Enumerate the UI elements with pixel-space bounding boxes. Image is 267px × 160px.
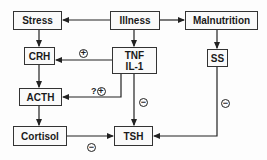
node-illness-label: Illness — [119, 15, 150, 26]
question-mark: ? — [91, 86, 97, 96]
node-stress: Stress — [13, 11, 62, 30]
node-cortisol: Cortisol — [13, 126, 67, 146]
node-cortisol-label: Cortisol — [21, 131, 59, 142]
minus-sign-ss-tsh: − — [221, 98, 230, 108]
minus-circle-icon: − — [139, 98, 148, 107]
node-stress-label: Stress — [22, 15, 53, 26]
node-tsh: TSH — [114, 126, 153, 146]
minus-circle-icon: − — [87, 143, 96, 152]
node-ss-label: SS — [211, 53, 224, 64]
question-plus-sign-tnf-acth: ?+ — [91, 86, 106, 96]
diagram-canvas: Stress Illness Malnutrition CRH TNFIL-1 … — [0, 0, 267, 160]
minus-circle-icon: − — [221, 99, 230, 108]
node-acth: ACTH — [19, 88, 62, 106]
node-crh-label: CRH — [29, 51, 51, 62]
minus-sign-cortisol-tsh: − — [87, 142, 96, 152]
node-illness: Illness — [110, 11, 160, 30]
node-malnutrition-label: Malnutrition — [193, 15, 250, 26]
plus-sign-tnf-crh: + — [79, 48, 88, 58]
node-tnf-il1: TNFIL-1 — [112, 47, 157, 74]
node-acth-label: ACTH — [27, 92, 55, 103]
plus-circle-icon: + — [97, 87, 106, 96]
node-ss: SS — [207, 49, 228, 67]
node-malnutrition: Malnutrition — [185, 11, 258, 30]
minus-sign-tnf-tsh: − — [139, 97, 148, 107]
plus-circle-icon: + — [79, 49, 88, 58]
node-il1-label: IL-1 — [126, 61, 144, 72]
node-tnf-label: TNF — [125, 50, 144, 61]
node-tsh-label: TSH — [124, 131, 144, 142]
node-crh: CRH — [24, 47, 55, 65]
